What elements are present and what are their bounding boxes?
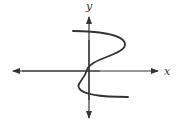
y-axis-label: y — [85, 0, 93, 13]
curve — [73, 31, 128, 97]
graph-figure: y x — [0, 0, 185, 129]
x-axis-label: x — [164, 65, 171, 78]
